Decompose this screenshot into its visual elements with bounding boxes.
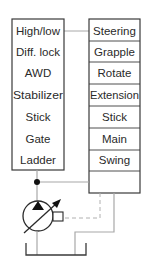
right-item-2: Rotate — [98, 67, 132, 79]
right-item-6: Swing — [99, 154, 130, 166]
pilot-line-dashed — [63, 193, 100, 218]
left-item-2: AWD — [25, 67, 51, 79]
return-line — [75, 193, 114, 255]
right-item-0: Steering — [93, 25, 136, 37]
left-valve-block: High/low Diff. lock AWD Stabilizer Stick… — [12, 19, 64, 170]
right-item-5: Main — [102, 133, 127, 145]
left-item-4: Stick — [26, 111, 51, 123]
right-valve-block: Steering Grapple Rotate Extension Stick … — [89, 19, 140, 193]
right-item-3: Extension — [90, 89, 139, 101]
left-item-0: High/low — [16, 25, 61, 37]
junction-dot-icon — [34, 179, 40, 185]
variable-pump-icon — [23, 199, 63, 233]
hydraulic-diagram: High/low Diff. lock AWD Stabilizer Stick… — [0, 0, 149, 266]
tank-icon — [26, 243, 86, 255]
left-item-5: Gate — [26, 133, 51, 145]
right-item-1: Grapple — [94, 46, 135, 58]
left-item-1: Diff. lock — [16, 46, 60, 58]
right-item-4: Stick — [102, 111, 127, 123]
left-item-3: Stabilizer — [13, 89, 63, 101]
left-item-6: Ladder — [20, 154, 56, 166]
